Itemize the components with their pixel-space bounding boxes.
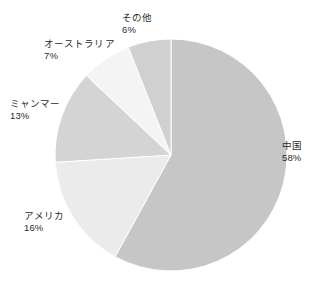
slice-label-myanmar: ミャンマー 13%	[10, 98, 61, 122]
pie-chart-figure: 中国 58% アメリカ 16% ミャンマー 13% オーストラリア 7% その他…	[0, 0, 326, 292]
slice-label-myanmar-percent: 13%	[10, 110, 61, 122]
slice-label-china-percent: 58%	[282, 152, 302, 164]
slice-label-china-name: 中国	[282, 140, 302, 152]
slice-label-usa: アメリカ 16%	[24, 210, 64, 234]
slice-label-other-name: その他	[122, 12, 152, 24]
slice-label-other: その他 6%	[122, 12, 152, 36]
slice-label-australia-percent: 7%	[44, 50, 115, 62]
slice-label-other-percent: 6%	[122, 24, 152, 36]
slice-label-australia-name: オーストラリア	[44, 38, 115, 50]
slice-label-usa-name: アメリカ	[24, 210, 64, 222]
pie-slice-group	[55, 39, 287, 271]
slice-label-china: 中国 58%	[282, 140, 302, 164]
slice-label-myanmar-name: ミャンマー	[10, 98, 61, 110]
slice-label-usa-percent: 16%	[24, 222, 64, 234]
slice-label-australia: オーストラリア 7%	[44, 38, 115, 62]
